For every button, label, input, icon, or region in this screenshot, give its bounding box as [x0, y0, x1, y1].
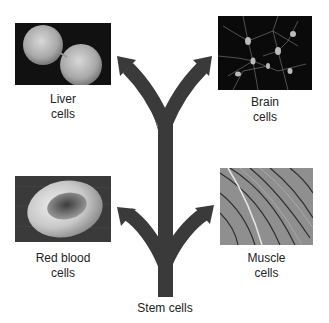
- red-blood-cells-label: Red blood cells: [10, 251, 116, 281]
- red-blood-cells-image: [15, 176, 111, 242]
- brain-cells-label: Brain cells: [218, 95, 312, 125]
- liver-cells-image: [15, 23, 111, 85]
- muscle-cells-label: Muscle cells: [218, 251, 315, 281]
- muscle-cells-image: [220, 168, 313, 245]
- brain-cells-image: [218, 16, 312, 90]
- stem-cells-label: Stem cells: [115, 301, 215, 316]
- liver-cells-label: Liver cells: [15, 92, 111, 122]
- arrow-stem: [158, 112, 173, 297]
